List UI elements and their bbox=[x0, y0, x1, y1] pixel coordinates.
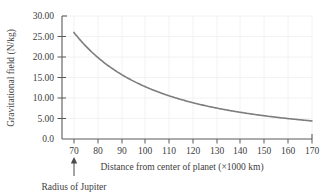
x-tick-label-100: 100 bbox=[138, 146, 153, 156]
x-tick-label-170: 170 bbox=[305, 146, 320, 156]
x-tick-label-80: 80 bbox=[93, 146, 103, 156]
x-tick-label-110: 110 bbox=[162, 146, 176, 156]
chart-svg: 30.00 25.00 20.00 15.00 10.00 5.00 0.0 7… bbox=[0, 0, 328, 196]
x-tick-label-140: 140 bbox=[233, 146, 248, 156]
y-tick-label-15: 15.00 bbox=[33, 73, 55, 83]
y-tick-label-10: 10.00 bbox=[33, 93, 55, 103]
x-tick-label-150: 150 bbox=[257, 146, 272, 156]
y-axis-title: Gravitational field (N/kg) bbox=[6, 29, 17, 127]
y-tick-label-20: 20.00 bbox=[33, 52, 55, 62]
x-tick-label-120: 120 bbox=[186, 146, 201, 156]
x-tick-label-90: 90 bbox=[117, 146, 127, 156]
gravitational-field-chart: 30.00 25.00 20.00 15.00 10.00 5.00 0.0 7… bbox=[0, 0, 328, 196]
x-axis-title: Distance from center of planet (×1000 km… bbox=[100, 162, 263, 173]
y-tick-label-5: 5.00 bbox=[37, 114, 54, 124]
y-tick-label-0: 0.0 bbox=[42, 134, 54, 144]
x-tick-label-70: 70 bbox=[69, 146, 79, 156]
y-tick-label-25: 25.00 bbox=[33, 32, 55, 42]
radius-of-jupiter-label: Radius of Jupiter bbox=[42, 182, 108, 192]
y-tick-label-30: 30.00 bbox=[33, 11, 55, 21]
x-tick-label-130: 130 bbox=[210, 146, 225, 156]
x-tick-label-160: 160 bbox=[281, 146, 296, 156]
